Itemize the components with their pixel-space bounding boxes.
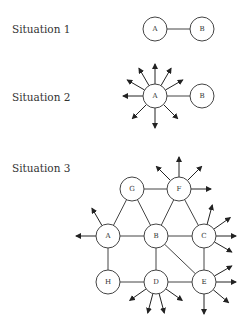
node-C: C <box>192 224 216 248</box>
node-label: H <box>105 278 111 286</box>
arrow-icon <box>139 68 149 85</box>
node-B: B <box>190 17 214 41</box>
arrow-icon <box>130 289 146 300</box>
node-label: A <box>104 232 111 240</box>
arrow-icon <box>207 205 212 224</box>
arrow-icon <box>214 266 231 276</box>
arrow-icon <box>156 166 170 180</box>
node-label: A <box>151 92 158 100</box>
node-A: A <box>96 224 120 248</box>
node-label: B <box>153 232 158 240</box>
arrow-icon <box>159 294 164 313</box>
node-label: B <box>199 92 204 100</box>
arrow-icon <box>132 104 146 118</box>
node-label: C <box>201 232 206 240</box>
arrow-icon <box>166 289 182 300</box>
arrow-icon <box>148 294 153 313</box>
node-B: B <box>190 84 214 108</box>
network-diagram: Situation 1ABSituation 2ABSituation 3GFA… <box>0 0 251 321</box>
node-B: B <box>144 224 168 248</box>
node-label: G <box>129 185 135 193</box>
situation-label: Situation 2 <box>12 91 70 103</box>
situation-2: Situation 2AB <box>12 64 214 128</box>
arrow-icon <box>163 104 177 118</box>
node-label: D <box>153 278 159 286</box>
arrow-icon <box>213 290 228 303</box>
node-G: G <box>120 177 144 201</box>
node-label: F <box>177 185 182 193</box>
arrow-icon <box>127 80 144 90</box>
arrow-icon <box>161 68 171 85</box>
node-label: E <box>201 278 206 286</box>
situation-1: Situation 1AB <box>12 17 214 41</box>
node-A: A <box>143 17 167 41</box>
arrow-icon <box>187 166 201 180</box>
node-F: F <box>167 177 191 201</box>
arrow-icon <box>165 80 182 90</box>
node-D: D <box>144 270 168 294</box>
node-E: E <box>192 270 216 294</box>
node-label: A <box>151 25 158 33</box>
node-label: B <box>199 25 204 33</box>
node-H: H <box>96 270 120 294</box>
situation-label: Situation 1 <box>12 23 70 35</box>
node-A: A <box>143 84 167 108</box>
arrow-icon <box>214 218 230 229</box>
arrow-icon <box>92 208 102 225</box>
situation-label: Situation 3 <box>12 162 70 174</box>
situation-3: Situation 3GFABCHDE <box>12 157 236 314</box>
arrow-icon <box>214 242 231 252</box>
